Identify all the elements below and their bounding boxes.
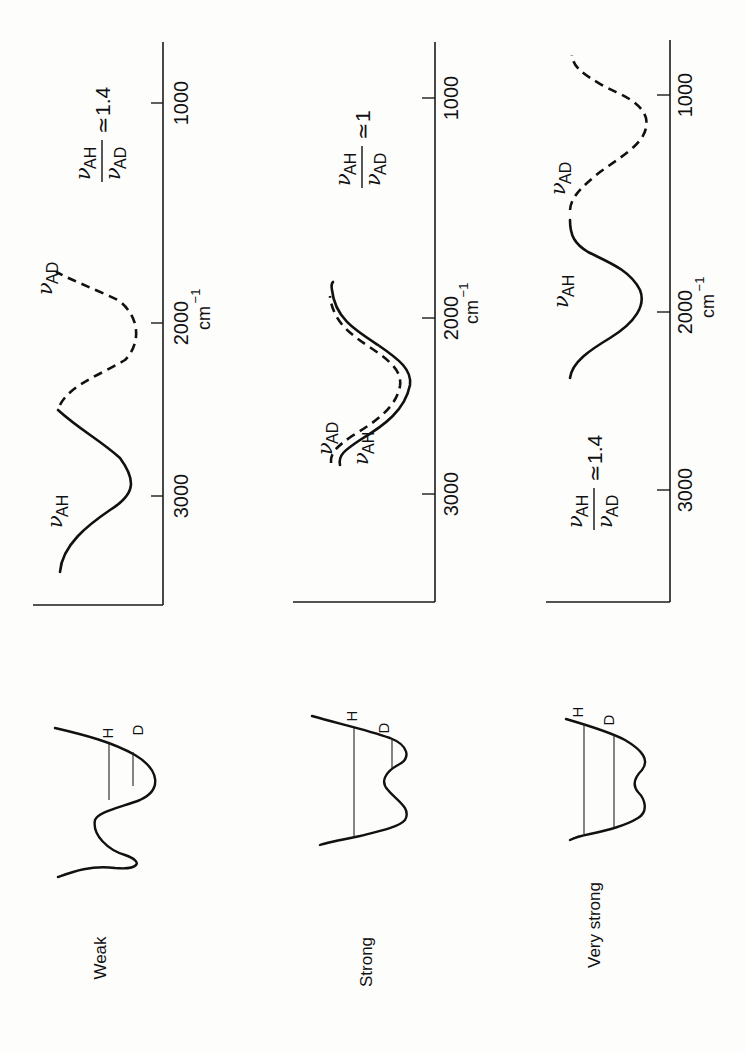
svg-text:AH: AH (54, 495, 71, 517)
ratio-annotation: ν AH ν AD ≃ 1 (331, 110, 389, 188)
tick-label-1000: 1000 (440, 76, 462, 121)
label-nu-ah: ν AH (549, 275, 577, 308)
label-nu-ad: ν AD (546, 162, 574, 195)
tick-label-2000: 2000 (170, 301, 192, 346)
svg-text:≃: ≃ (91, 116, 114, 134)
panel-strong: 1000 2000 3000 cm −1 ν AD ν AH ν AH ν AD… (293, 42, 482, 987)
svg-text:AD: AD (557, 162, 574, 184)
panel-weak: 1000 2000 3000 cm −1 ν AH ν AD ν AH ν AD… (33, 42, 214, 980)
label-d: D (129, 724, 146, 735)
tick-label-3000: 3000 (674, 468, 696, 513)
label-d: D (600, 714, 617, 725)
svg-text:AD: AD (324, 422, 341, 444)
label-nu-ad: ν AD (313, 422, 341, 455)
svg-text:AH: AH (82, 147, 99, 169)
spectrum-ah-band (570, 220, 642, 378)
spectrum-ad-band (56, 272, 136, 405)
svg-text:AD: AD (604, 495, 621, 517)
tick-label-2000: 2000 (440, 296, 462, 341)
svg-text:≃: ≃ (351, 122, 374, 140)
label-nu-ad: ν AD (33, 262, 61, 295)
svg-text:AD: AD (112, 147, 129, 169)
svg-text:cm: cm (698, 294, 718, 318)
tick-label-3000: 3000 (170, 474, 192, 519)
category-label-weak: Weak (91, 936, 110, 980)
tick-label-2000: 2000 (674, 290, 696, 335)
svg-text:≃: ≃ (583, 464, 606, 482)
svg-text:−1: −1 (456, 283, 471, 298)
hydrogen-bond-figure: 1000 2000 3000 cm −1 ν AH ν AD ν AH ν AD… (0, 0, 746, 1053)
svg-text:AH: AH (560, 275, 577, 297)
tick-label-1000: 1000 (674, 73, 696, 118)
svg-text:cm: cm (462, 300, 482, 324)
label-h: H (343, 711, 360, 722)
svg-text:AH: AH (360, 432, 377, 454)
label-d: D (375, 722, 392, 733)
svg-text:AD: AD (372, 153, 389, 175)
spectrum-ah-band (58, 410, 131, 572)
svg-text:cm: cm (194, 306, 214, 330)
potential-well-strong (312, 716, 407, 845)
svg-text:1: 1 (351, 110, 374, 122)
label-nu-ah: ν AH (43, 495, 71, 528)
svg-text:1.4: 1.4 (91, 86, 114, 116)
potential-well-weak (55, 728, 155, 877)
label-h: H (99, 728, 116, 739)
category-label-strong: Strong (357, 937, 376, 987)
spectrum-ad-band (570, 55, 646, 210)
svg-text:AD: AD (44, 262, 61, 284)
category-label-very-strong: Very strong (585, 882, 604, 968)
potential-well-very-strong (566, 719, 645, 840)
tick-label-3000: 3000 (440, 472, 462, 517)
svg-text:−1: −1 (188, 289, 203, 304)
svg-text:1.4: 1.4 (583, 434, 606, 464)
label-h: H (569, 707, 586, 718)
svg-text:AH: AH (342, 153, 359, 175)
tick-label-1000: 1000 (170, 81, 192, 126)
ratio-annotation: ν AH ν AD ≃ 1.4 (71, 86, 129, 182)
svg-text:−1: −1 (692, 277, 707, 292)
panel-very-strong: 1000 2000 3000 cm −1 ν AH ν AD ν AH ν AD… (546, 40, 718, 968)
ratio-annotation: ν AH ν AD ≃ 1.4 (563, 434, 621, 530)
svg-text:AH: AH (574, 495, 591, 517)
